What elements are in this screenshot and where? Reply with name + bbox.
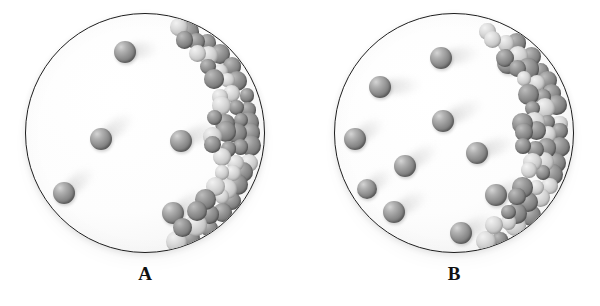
packed-sphere [199, 46, 218, 65]
packed-sphere [240, 135, 261, 156]
packed-sphere [213, 148, 231, 166]
free-particle [466, 142, 488, 164]
panel-b-label: B [434, 263, 474, 285]
packed-sphere [501, 214, 516, 229]
packed-sphere [227, 174, 248, 195]
packed-sphere [515, 123, 532, 140]
free-particle [162, 202, 184, 224]
packed-sphere [498, 35, 515, 52]
free-particle [357, 179, 377, 199]
packed-sphere [220, 73, 235, 88]
free-particle [369, 76, 391, 98]
packed-sphere [532, 63, 549, 80]
packed-sphere [535, 89, 551, 105]
packed-sphere [515, 138, 531, 154]
free-particle [90, 128, 112, 150]
packed-sphere [531, 188, 550, 207]
packed-sphere [213, 64, 228, 79]
packed-sphere [229, 100, 244, 115]
packed-sphere [200, 59, 216, 75]
packed-sphere [533, 152, 553, 172]
packed-sphere [546, 95, 566, 115]
packed-sphere [240, 154, 258, 172]
packed-sphere [537, 138, 556, 157]
free-particle [344, 128, 366, 150]
packed-sphere [185, 214, 207, 236]
packed-sphere [551, 116, 567, 132]
vessel-a [25, 13, 265, 253]
packed-sphere [189, 45, 206, 62]
packed-sphere [241, 123, 260, 142]
free-particle [497, 52, 519, 74]
figure-canvas: A B [0, 0, 600, 306]
packed-sphere [221, 141, 236, 156]
packed-sphere [524, 112, 545, 133]
packed-sphere [518, 84, 539, 105]
free-particle [383, 201, 405, 223]
free-particle [485, 184, 507, 206]
packed-sphere [546, 153, 566, 173]
packed-sphere [178, 21, 199, 42]
packed-sphere [215, 165, 230, 180]
packed-sphere [501, 205, 516, 220]
packed-sphere [521, 162, 537, 178]
packed-sphere [527, 121, 546, 140]
packed-sphere [234, 113, 248, 127]
free-particle [430, 47, 452, 69]
packed-sphere [541, 178, 557, 194]
packed-sphere [210, 44, 231, 65]
packed-sphere [206, 177, 225, 196]
packed-sphere [238, 112, 259, 133]
packed-sphere [549, 137, 569, 157]
free-particle [450, 222, 472, 244]
packed-sphere [551, 123, 567, 139]
packed-sphere [223, 57, 242, 76]
packed-sphere [529, 180, 544, 195]
packed-sphere [212, 96, 231, 115]
packed-sphere [176, 31, 193, 48]
packed-sphere [223, 85, 240, 102]
free-particle [432, 110, 454, 132]
packed-sphere [536, 165, 550, 179]
packed-sphere [227, 71, 248, 92]
packed-sphere [529, 75, 545, 91]
packed-sphere [215, 189, 230, 204]
packed-sphere [517, 71, 531, 85]
packed-sphere [223, 192, 241, 210]
packed-sphere [540, 115, 555, 130]
packed-sphere [240, 88, 254, 102]
vessel-b [334, 13, 574, 253]
packed-sphere [484, 31, 501, 48]
packed-sphere [527, 141, 544, 158]
packed-sphere [525, 101, 540, 116]
packed-sphere [188, 33, 205, 50]
packed-sphere [227, 155, 244, 172]
packed-sphere [226, 123, 246, 143]
packed-sphere [538, 71, 557, 90]
packed-sphere [240, 102, 256, 118]
packed-sphere [204, 69, 224, 89]
packed-sphere [233, 139, 248, 154]
packed-sphere [542, 84, 561, 103]
packed-sphere [225, 165, 241, 181]
packed-sphere [170, 18, 188, 36]
panel-a-label: A [125, 263, 165, 285]
packed-sphere [199, 34, 217, 52]
free-particle [170, 130, 192, 152]
packed-sphere [535, 98, 556, 119]
packed-sphere [212, 89, 228, 105]
packed-sphere [507, 33, 527, 53]
free-particle [114, 41, 136, 63]
packed-sphere [540, 126, 557, 143]
free-particle [394, 155, 416, 177]
packed-sphere [506, 203, 527, 224]
packed-sphere [512, 113, 533, 134]
packed-sphere [542, 164, 563, 185]
packed-sphere [518, 192, 538, 212]
packed-sphere [217, 179, 237, 199]
packed-sphere [523, 153, 541, 171]
packed-sphere [479, 23, 495, 39]
packed-sphere [200, 205, 218, 223]
free-particle [53, 182, 75, 204]
packed-sphere [233, 162, 253, 182]
